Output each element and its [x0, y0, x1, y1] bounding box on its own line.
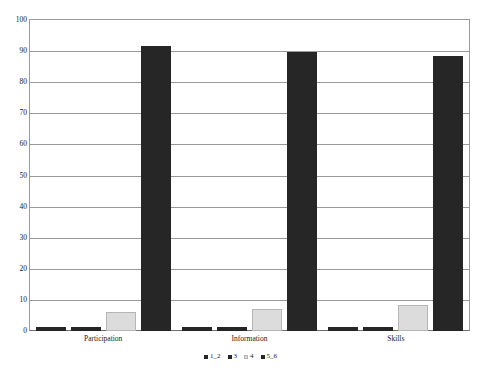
x-axis-category-label: Participation	[30, 334, 176, 344]
legend-item[interactable]: 3	[228, 352, 238, 361]
legend-swatch-icon	[204, 355, 208, 359]
y-axis-tick-label: 100	[2, 16, 27, 24]
bar[interactable]	[106, 312, 136, 331]
chart-legend: 1_2345_6	[0, 352, 481, 361]
y-axis-tick-label: 40	[2, 203, 27, 211]
bar[interactable]	[71, 327, 101, 331]
y-axis-tick-labels: 1009080706050403020100	[0, 0, 27, 331]
bar-chart: 1009080706050403020100 ParticipationInfo…	[0, 0, 481, 368]
y-axis-tick-label: 50	[2, 172, 27, 180]
bars-layer	[30, 20, 469, 331]
legend-item[interactable]: 5_6	[261, 352, 278, 361]
bar[interactable]	[36, 327, 66, 331]
legend-swatch-icon	[244, 355, 248, 359]
bar-group	[30, 20, 176, 331]
legend-item[interactable]: 1_2	[204, 352, 221, 361]
legend-label: 5_6	[267, 352, 278, 361]
y-axis-tick-label: 70	[2, 109, 27, 117]
y-axis-tick-label: 30	[2, 234, 27, 242]
y-axis-tick-label: 0	[2, 327, 27, 335]
legend-label: 1_2	[210, 352, 221, 361]
bar[interactable]	[398, 305, 428, 331]
bar[interactable]	[287, 52, 317, 331]
bar[interactable]	[217, 327, 247, 331]
legend-item[interactable]: 4	[244, 352, 254, 361]
bar[interactable]	[252, 309, 282, 331]
legend-swatch-icon	[228, 355, 232, 359]
legend-label: 3	[234, 352, 238, 361]
y-axis-tick-label: 80	[2, 78, 27, 86]
y-axis-tick-label: 90	[2, 47, 27, 55]
bar[interactable]	[433, 56, 463, 331]
bar[interactable]	[141, 46, 171, 331]
x-axis-category-label: Skills	[323, 334, 469, 344]
legend-label: 4	[250, 352, 254, 361]
bar-group	[176, 20, 322, 331]
y-axis-tick-label: 20	[2, 265, 27, 273]
y-axis-tick-label: 10	[2, 296, 27, 304]
bar[interactable]	[328, 327, 358, 331]
x-axis-category-label: Information	[176, 334, 322, 344]
legend-swatch-icon	[261, 355, 265, 359]
x-axis-category-labels: ParticipationInformationSkills	[30, 334, 469, 348]
bar-group	[323, 20, 469, 331]
bar[interactable]	[363, 327, 393, 331]
y-axis-tick-label: 60	[2, 140, 27, 148]
bar[interactable]	[182, 327, 212, 331]
